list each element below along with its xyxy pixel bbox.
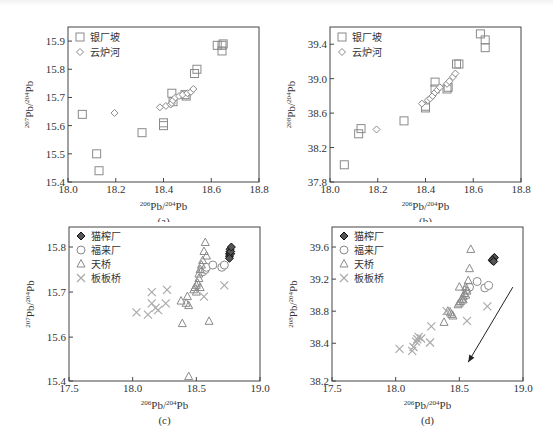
y-tick-label: 15.6 [47,331,67,343]
legend-entry-label: 银厂坡 [352,31,382,43]
y-tick-label: 15.5 [46,148,66,160]
y-tick-label: 38.4 [310,337,330,349]
x-tick-label: 18.4 [154,183,174,195]
panel-caption: (b) [419,215,432,222]
y-axis-label: 207Pb/204Pb [23,80,35,128]
x-axis-label: 206Pb/204Pb [141,399,189,411]
y-tick-label: 38.2 [310,375,329,387]
legend: 猫榨厂福来厂天桥板板桥 [77,230,121,284]
y-tick-label: 39.6 [310,241,330,253]
x-tick-label: 18.4 [416,183,436,195]
x-tick-label: 18.8 [249,183,269,195]
y-tick-label: 39.0 [308,73,328,85]
series-cross [132,281,228,318]
x-tick-label: 18.2 [106,183,125,195]
x-tick-label: 19.0 [250,382,270,394]
series-square [78,40,227,175]
x-tick-label: 18.0 [386,382,406,394]
y-tick-label: 38.8 [310,305,330,317]
legend-entry-label: 福来厂 [91,244,121,256]
x-axis-label: 206Pb/204Pb [140,200,188,212]
chart-panel-b: 18.018.218.418.618.837.838.238.639.039.4… [276,0,553,222]
x-tick-label: 18.5 [187,382,207,394]
legend: 银厂坡云炉河 [76,31,120,58]
series-diamond [373,70,459,133]
y-axis-label: 208Pb/204Pb [285,80,297,128]
y-tick-label: 37.8 [308,176,328,188]
legend: 猫榨厂福来厂天桥板板桥 [340,230,384,284]
legend-entry-label: 天桥 [354,259,374,270]
x-tick-label: 18.8 [511,183,531,195]
chart-panel-a: 18.018.218.418.618.815.415.515.615.715.8… [0,0,276,222]
y-tick-label: 15.6 [46,120,66,132]
legend-entry-label: 天桥 [91,259,111,270]
y-tick-label: 39.2 [310,273,329,285]
y-tick-label: 15.9 [46,35,66,47]
x-tick-label: 18.5 [450,382,470,394]
series-triangle [177,238,213,380]
y-tick-label: 15.8 [46,63,66,75]
legend: 银厂坡云炉河 [338,31,382,58]
legend-entry-label: 福来厂 [354,244,384,256]
x-tick-label: 18.6 [464,183,484,195]
y-tick-label: 15.7 [47,286,67,298]
x-axis-label: 206Pb/204Pb [404,399,452,411]
panel-caption: (d) [421,414,434,427]
legend-entry-label: 猫榨厂 [91,230,121,242]
legend-entry-label: 板板桥 [354,272,384,284]
y-tick-label: 39.4 [308,38,328,50]
y-tick-label: 38.6 [308,107,328,119]
y-tick-label: 15.4 [46,176,66,188]
x-axis-label: 206Pb/204Pb [402,200,450,212]
legend-entry-label: 板板桥 [91,272,121,284]
chart-panel-d: 17.518.018.519.038.238.438.839.239.6206P… [276,222,553,444]
legend-entry-label: 云炉河 [352,47,382,58]
series-filled-diamond [488,253,498,265]
arrow-head-icon [468,355,474,363]
y-tick-label: 38.2 [308,142,327,154]
y-tick-label: 15.7 [46,91,66,103]
y-tick-label: 15.8 [47,241,67,253]
panel-caption: (c) [158,414,171,427]
legend-entry-label: 银厂坡 [90,31,120,43]
trend-arrow [468,287,513,362]
y-tick-label: 15.4 [47,375,67,387]
y-axis-label: 208Pb/204Pb [287,280,299,328]
x-tick-label: 19.0 [513,382,533,394]
chart-panel-c: 17.518.018.519.015.415.615.715.8206Pb/20… [0,222,276,444]
series-filled-diamond [225,243,235,262]
x-tick-label: 18.2 [368,183,387,195]
x-tick-label: 18.0 [123,382,143,394]
panel-caption: (a) [157,215,170,222]
legend-entry-label: 云炉河 [90,47,120,58]
x-tick-label: 18.6 [202,183,222,195]
y-axis-label: 207Pb/204Pb [24,280,36,328]
legend-entry-label: 猫榨厂 [354,230,384,242]
